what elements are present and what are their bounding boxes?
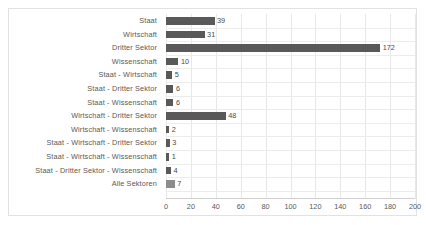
x-tick-label: 200 bbox=[409, 201, 421, 213]
bar-row: 6 bbox=[166, 96, 415, 110]
bar-value-label: 6 bbox=[176, 97, 180, 108]
x-tick-label: 80 bbox=[262, 201, 270, 213]
x-tick-label: 120 bbox=[309, 201, 321, 213]
category-label: Wirtschaft bbox=[9, 28, 161, 42]
bar-row: 48 bbox=[166, 109, 415, 123]
bar-row: 3 bbox=[166, 136, 415, 150]
bar[interactable] bbox=[166, 44, 380, 52]
category-axis-labels: StaatWirtschaftDritter SektorWissenschaf… bbox=[9, 14, 161, 191]
chart-plot-container: StaatWirtschaftDritter SektorWissenschaf… bbox=[9, 9, 416, 215]
bar-value-label: 7 bbox=[177, 178, 181, 189]
gridline-horizontal bbox=[166, 191, 415, 192]
category-label: Wirtschaft - Wissenschaft bbox=[9, 123, 161, 137]
bar[interactable] bbox=[166, 112, 226, 120]
category-label: Wissenschaft bbox=[9, 55, 161, 69]
bar[interactable] bbox=[166, 139, 170, 147]
bar-value-label: 39 bbox=[217, 15, 225, 26]
x-tick-label: 20 bbox=[187, 201, 195, 213]
category-label: Wirtschaft - Dritter Sektor bbox=[9, 109, 161, 123]
bar-value-label: 5 bbox=[175, 69, 179, 80]
bar-value-label: 48 bbox=[228, 110, 236, 121]
bar[interactable] bbox=[166, 153, 169, 161]
x-axis-line bbox=[166, 198, 415, 199]
bar[interactable] bbox=[166, 58, 178, 66]
x-tick-label: 0 bbox=[164, 201, 168, 213]
bar-row: 39 bbox=[166, 14, 415, 28]
bar-value-label: 6 bbox=[176, 83, 180, 94]
bar-value-label: 31 bbox=[207, 29, 215, 40]
bar-row: 4 bbox=[166, 164, 415, 178]
bar-value-label: 172 bbox=[383, 42, 395, 53]
bar-value-label: 10 bbox=[181, 56, 189, 67]
x-tick-label: 140 bbox=[334, 201, 346, 213]
category-label: Dritter Sektor bbox=[9, 41, 161, 55]
bar-value-label: 3 bbox=[172, 137, 176, 148]
bar[interactable] bbox=[166, 85, 173, 93]
bar[interactable] bbox=[166, 71, 172, 79]
chart-frame: StaatWirtschaftDritter SektorWissenschaf… bbox=[8, 8, 417, 216]
bar[interactable] bbox=[166, 180, 175, 188]
bar[interactable] bbox=[166, 99, 173, 107]
x-tick-label: 40 bbox=[212, 201, 220, 213]
bar[interactable] bbox=[166, 126, 169, 134]
category-label: Staat - Dritter Sektor - Wissenschaft bbox=[9, 164, 161, 178]
bar-row: 6 bbox=[166, 82, 415, 96]
bar-value-label: 2 bbox=[172, 124, 176, 135]
category-label: Staat - Wirtschaft - Dritter Sektor bbox=[9, 136, 161, 150]
bar-row: 10 bbox=[166, 55, 415, 69]
category-label: Staat - Dritter Sektor bbox=[9, 82, 161, 96]
bar-row: 1 bbox=[166, 150, 415, 164]
x-tick-label: 100 bbox=[284, 201, 296, 213]
bar-row: 2 bbox=[166, 123, 415, 137]
bar[interactable] bbox=[166, 167, 171, 175]
x-tick-label: 60 bbox=[237, 201, 245, 213]
category-label: Staat - Wirtschaft - Wissenschaft bbox=[9, 150, 161, 164]
bar-value-label: 1 bbox=[172, 151, 176, 162]
bar-value-label: 4 bbox=[173, 165, 177, 176]
gridline-vertical bbox=[415, 14, 416, 199]
bar[interactable] bbox=[166, 17, 215, 25]
category-label: Staat - Wirtschaft bbox=[9, 68, 161, 82]
bar-row: 7 bbox=[166, 177, 415, 191]
bar-row: 31 bbox=[166, 28, 415, 42]
plot-area: 3931172105664823147 bbox=[166, 14, 415, 199]
category-label: Staat bbox=[9, 14, 161, 28]
category-label: Alle Sektoren bbox=[9, 177, 161, 191]
x-axis-tick-labels: 020406080100120140160180200 bbox=[166, 201, 415, 215]
x-tick-label: 160 bbox=[359, 201, 371, 213]
bar-row: 172 bbox=[166, 41, 415, 55]
x-tick-label: 180 bbox=[384, 201, 396, 213]
bar-row: 5 bbox=[166, 68, 415, 82]
category-label: Staat - Wissenschaft bbox=[9, 96, 161, 110]
bar[interactable] bbox=[166, 31, 205, 39]
